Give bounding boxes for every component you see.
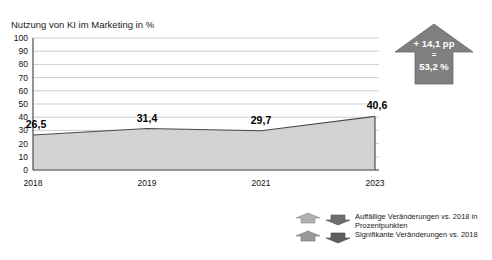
chart-axis-title: Nutzung von KI im Marketing in %	[11, 19, 154, 30]
svg-text:2018: 2018	[24, 178, 43, 188]
legend-label-auffaellige: Auffällige Veränderungen vs. 2018 in Pro…	[352, 212, 489, 230]
svg-text:90: 90	[19, 46, 29, 56]
series-area-fill	[33, 116, 375, 170]
svg-text:26,5: 26,5	[26, 118, 47, 130]
chart-legend: Auffällige Veränderungen vs. 2018 in Pro…	[296, 212, 492, 256]
svg-text:40,6: 40,6	[367, 99, 388, 111]
svg-text:0: 0	[23, 165, 28, 175]
svg-text:60: 60	[19, 86, 29, 96]
svg-text:20: 20	[19, 139, 29, 149]
legend-item-auffaellige: Auffällige Veränderungen vs. 2018 in Pro…	[296, 212, 489, 230]
legend-label-signifikante: Signifikante Veränderungen vs. 2018	[352, 230, 489, 239]
legend-item-signifikante: Signifikante Veränderungen vs. 2018	[296, 230, 489, 244]
svg-text:2021: 2021	[252, 178, 271, 188]
svg-text:10: 10	[19, 152, 29, 162]
legend-label-auffaellige-line1: Auffällige Veränderungen vs. 2018 in	[355, 212, 477, 221]
y-axis-tick-labels: 0102030405060708090100	[14, 33, 28, 175]
legend-icons-auffaellige	[296, 212, 352, 226]
legend-icons-signifikante	[296, 230, 352, 244]
svg-text:100: 100	[14, 33, 28, 43]
legend-label-signifikante-line1: Signifikante Veränderungen vs. 2018	[355, 230, 478, 239]
up-arrow-callout-icon	[393, 22, 475, 90]
change-callout: + 14,1 pp = 53,2 %	[393, 22, 475, 90]
cropped-headline	[0, 0, 492, 3]
svg-text:2023: 2023	[366, 178, 385, 188]
svg-text:80: 80	[19, 59, 29, 69]
svg-text:29,7: 29,7	[251, 114, 272, 126]
arrow-pair-light-icon	[296, 212, 352, 226]
svg-text:70: 70	[19, 73, 29, 83]
svg-text:31,4: 31,4	[137, 112, 158, 124]
chart-page: Nutzung von KI im Marketing in % 0102030…	[0, 0, 492, 260]
svg-text:2019: 2019	[138, 178, 157, 188]
x-axis-tick-labels: 2018201920212023	[24, 178, 385, 188]
arrow-pair-dark-icon	[296, 230, 352, 244]
svg-text:50: 50	[19, 99, 29, 109]
